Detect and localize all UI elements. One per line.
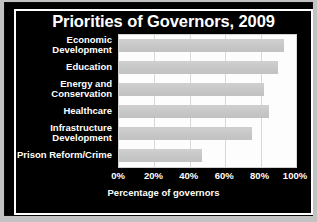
- category-axis-labels: Economic Development Education Energy an…: [5, 34, 114, 166]
- x-axis-tick-label: 0%: [111, 170, 125, 181]
- bar: [119, 61, 278, 74]
- bar-row: [119, 145, 296, 167]
- category-label-line: Education: [66, 62, 112, 73]
- x-axis-tick-label: 20%: [144, 170, 163, 181]
- category-label-line: Development: [52, 45, 112, 56]
- x-axis-tick-label: 80%: [250, 170, 269, 181]
- bar-row: [119, 123, 296, 145]
- category-label-healthcare: Healthcare: [5, 100, 114, 122]
- category-label-education: Education: [5, 56, 114, 78]
- bar: [119, 83, 264, 96]
- category-label-infrastructure-development: Infrastructure Development: [5, 122, 114, 144]
- x-axis-tick-label: 60%: [215, 170, 234, 181]
- category-label-energy-and-conservation: Energy and Conservation: [5, 78, 114, 100]
- category-label-line: Prison Reform/Crime: [17, 150, 112, 161]
- plot-area: [118, 34, 297, 168]
- category-label-line: Conservation: [51, 89, 112, 100]
- x-axis-tick-label: 100%: [283, 170, 307, 181]
- chart-title: Priorities of Governors, 2009: [16, 12, 311, 31]
- bar-series: [119, 35, 296, 167]
- category-label-economic-development: Economic Development: [5, 34, 114, 56]
- bar: [119, 105, 269, 118]
- category-label-line: Development: [50, 133, 112, 144]
- gridline: [296, 35, 297, 167]
- bar: [119, 149, 202, 162]
- bar-row: [119, 101, 296, 123]
- x-axis-tick-labels: 0%20%40%60%80%100%: [118, 170, 295, 182]
- x-axis-tick-label: 40%: [179, 170, 198, 181]
- bar-row: [119, 79, 296, 101]
- bar-row: [119, 57, 296, 79]
- bar: [119, 39, 284, 52]
- category-label-line: Healthcare: [63, 106, 112, 117]
- category-label-prison-reform-crime: Prison Reform/Crime: [5, 144, 114, 166]
- chart-panel: Priorities of Governors, 2009 Economic D…: [5, 3, 312, 215]
- bar: [119, 127, 252, 140]
- x-axis-title: Percentage of governors: [16, 187, 311, 198]
- chart-screenshot: Priorities of Governors, 2009 Economic D…: [0, 0, 317, 222]
- bar-row: [119, 35, 296, 57]
